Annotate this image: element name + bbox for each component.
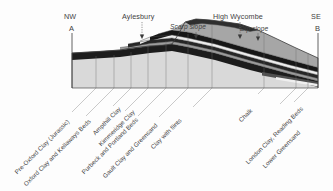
strata-leader-lines <box>72 88 308 117</box>
compass-label-nw: NW <box>64 13 76 20</box>
compass-label-se: SE <box>311 13 321 20</box>
annotation-scarp-slope: Scarp slope <box>170 24 206 31</box>
section-endpoint-b: B <box>315 25 320 33</box>
section-endpoint-a: A <box>69 25 74 33</box>
place-label-high-wycombe: High Wycombe <box>213 13 263 20</box>
geological-cross-section-figure: NW SE A B Aylesbury High Wycombe Scarp s… <box>0 0 333 191</box>
place-label-aylesbury: Aylesbury <box>122 13 154 20</box>
annotation-dip-slope: Dip slope <box>240 26 268 33</box>
